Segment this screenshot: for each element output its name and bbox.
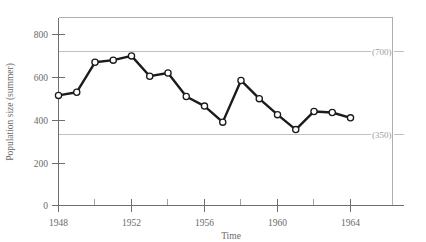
y-tick-label-0: 0 — [43, 201, 48, 211]
y-tick-label-600: 600 — [34, 73, 49, 83]
data-point — [220, 119, 226, 125]
data-point — [274, 112, 280, 118]
data-point — [110, 57, 116, 63]
x-axis-title: Time — [221, 231, 241, 241]
y-tick-label-800: 800 — [34, 30, 49, 40]
data-point — [256, 96, 262, 102]
line-chart: (700) (350) 800 600 400 200 0 — [0, 0, 426, 242]
data-point — [201, 103, 207, 109]
reference-label-350: (350) — [372, 130, 392, 140]
reference-label-700: (700) — [372, 47, 392, 57]
data-point — [183, 93, 189, 99]
y-tick-label-400: 400 — [34, 116, 49, 126]
data-point — [347, 115, 353, 121]
series-markers — [55, 53, 353, 133]
x-tick-label-1948: 1948 — [49, 218, 68, 228]
data-point — [311, 108, 317, 114]
x-axis — [59, 199, 405, 212]
data-point — [293, 127, 299, 133]
data-point — [147, 73, 153, 79]
data-point — [238, 77, 244, 83]
y-axis-title: Population size (summer) — [5, 63, 16, 161]
data-point — [92, 59, 98, 65]
data-point — [165, 70, 171, 76]
x-tick-label-1956: 1956 — [195, 218, 214, 228]
chart-figure: (700) (350) 800 600 400 200 0 — [0, 0, 426, 242]
data-point — [55, 92, 61, 98]
y-tick-label-200: 200 — [34, 159, 49, 169]
x-tick-label-1952: 1952 — [122, 218, 141, 228]
x-tick-label-1964: 1964 — [341, 218, 360, 228]
data-point — [128, 53, 134, 59]
plot-frame — [59, 18, 393, 206]
series-line-population — [59, 56, 351, 130]
data-series — [55, 53, 353, 133]
x-tick-label-1960: 1960 — [268, 218, 287, 228]
data-point — [74, 89, 80, 95]
y-axis — [52, 18, 65, 206]
data-point — [329, 109, 335, 115]
reference-lines — [59, 52, 405, 135]
